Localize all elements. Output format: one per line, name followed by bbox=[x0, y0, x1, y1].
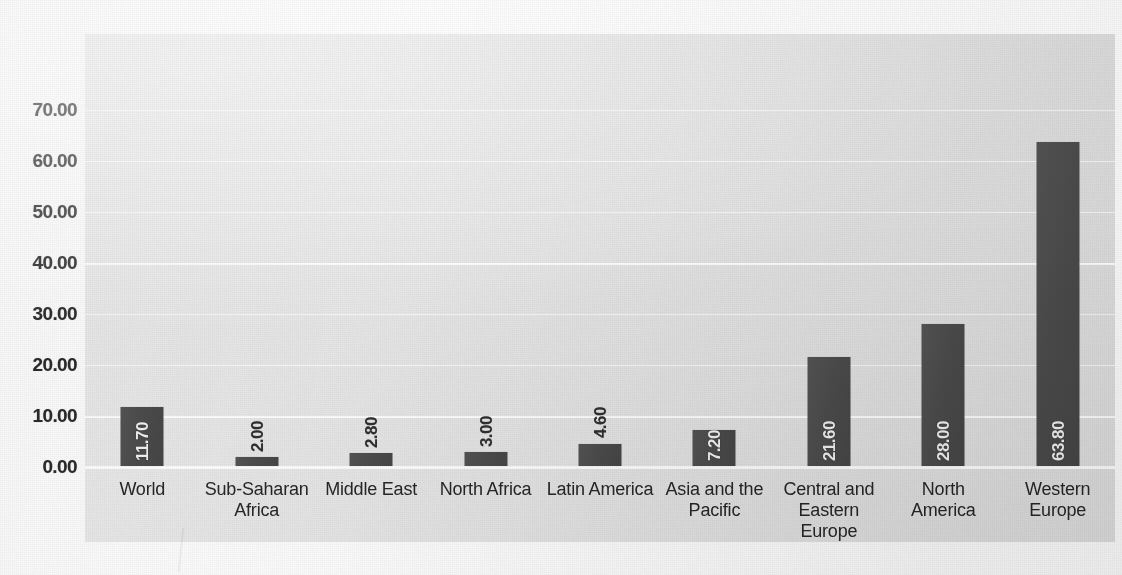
y-axis-tick-label: 60.00 bbox=[32, 150, 77, 172]
x-axis-category-label: Asia and thePacific bbox=[657, 479, 771, 543]
bar-value-label: 7.20 bbox=[706, 430, 723, 461]
x-axis-category-label-line: Africa bbox=[201, 500, 311, 521]
y-axis-tick-label: 70.00 bbox=[32, 99, 77, 121]
scanned-page: 11.702.002.803.004.607.2021.6028.0063.80… bbox=[0, 0, 1122, 575]
bar-value-label: 21.60 bbox=[820, 421, 837, 461]
bar-chart: 11.702.002.803.004.607.2021.6028.0063.80… bbox=[85, 34, 1115, 542]
x-axis-category-label-line: Sub-Saharan bbox=[201, 479, 311, 500]
y-axis-tick-label: 10.00 bbox=[32, 405, 77, 427]
bar-value-label: 2.00 bbox=[248, 421, 265, 452]
x-axis-category-label-line: World bbox=[87, 479, 197, 500]
bar[interactable] bbox=[350, 453, 393, 467]
x-axis-category-labels: WorldSub-SaharanAfricaMiddle EastNorth A… bbox=[85, 479, 1115, 543]
x-axis-category-label-line: North America bbox=[888, 479, 998, 521]
x-axis-category-label: Central andEastern Europe bbox=[772, 479, 886, 543]
bar-value-label: 28.00 bbox=[935, 421, 952, 461]
bar-value-label: 63.80 bbox=[1049, 421, 1066, 461]
x-axis-category-label-line: Eastern Europe bbox=[774, 500, 884, 542]
x-axis-category-label-line: Western bbox=[1003, 479, 1113, 500]
x-axis-category-label-line: Middle East bbox=[316, 479, 426, 500]
y-axis-tick-label: 50.00 bbox=[32, 201, 77, 223]
bar[interactable] bbox=[578, 444, 621, 467]
y-axis-tick-label: 40.00 bbox=[32, 252, 77, 274]
x-axis-category-label-line: Europe bbox=[1003, 500, 1113, 521]
x-axis-category-label: Middle East bbox=[314, 479, 428, 543]
x-axis-category-label: Sub-SaharanAfrica bbox=[199, 479, 313, 543]
y-axis: 0.0010.0020.0030.0040.0050.0060.0070.00 bbox=[0, 0, 85, 575]
bar-value-label: 11.70 bbox=[134, 422, 151, 461]
x-axis-category-label: Latin America bbox=[543, 479, 657, 543]
x-axis-category-label: WesternEurope bbox=[1001, 479, 1115, 543]
x-axis-category-label-line: North Africa bbox=[430, 479, 540, 500]
bar-value-label: 4.60 bbox=[591, 407, 608, 438]
bar[interactable] bbox=[1036, 142, 1079, 467]
x-axis-category-label: World bbox=[85, 479, 199, 543]
x-axis-category-label: North Africa bbox=[428, 479, 542, 543]
x-axis-category-label-line: Pacific bbox=[659, 500, 769, 521]
axis-baseline bbox=[85, 466, 1115, 469]
x-axis-category-label-line: Latin America bbox=[545, 479, 655, 500]
x-axis-category-label-line: Asia and the bbox=[659, 479, 769, 500]
bar[interactable] bbox=[464, 452, 507, 467]
y-axis-tick-label: 20.00 bbox=[32, 354, 77, 376]
y-axis-tick-label: 30.00 bbox=[32, 303, 77, 325]
x-axis-category-label-line: Central and bbox=[774, 479, 884, 500]
bar-value-label: 3.00 bbox=[477, 416, 494, 447]
bar-value-label: 2.80 bbox=[363, 417, 380, 448]
y-axis-tick-label: 0.00 bbox=[42, 456, 77, 478]
x-axis-category-label: North America bbox=[886, 479, 1000, 543]
